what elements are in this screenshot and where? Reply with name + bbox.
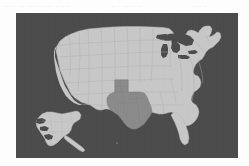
scan-artifact-strip: ..... ... ...... .... .. ... .. . ..... …	[0, 0, 249, 13]
scan-speck-artifact	[116, 142, 118, 144]
scan-smudge-text-3: . .... .	[188, 1, 207, 9]
united-states-map-svg	[16, 13, 238, 158]
scanned-page: ..... ... ...... .... .. ... .. . ..... …	[0, 0, 249, 166]
scan-smudge-text-1: ..... ... ...... .... .. ...	[4, 1, 70, 9]
united-states-map-figure	[16, 13, 238, 158]
scan-smudge-text-2: .. . ..... ..	[112, 1, 143, 9]
